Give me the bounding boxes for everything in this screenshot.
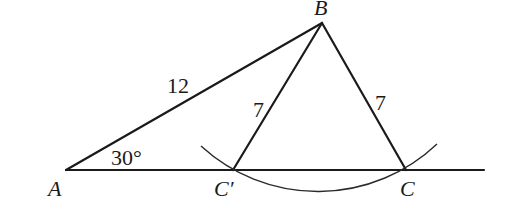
label-angle-a: 30°	[111, 145, 142, 170]
segment-bc-prime	[233, 23, 322, 170]
label-point-c-prime: C′	[214, 176, 235, 201]
label-point-a: A	[46, 176, 62, 201]
label-point-c: C	[400, 176, 415, 201]
label-length-ab: 12	[167, 73, 189, 98]
segment-ab	[66, 23, 322, 170]
label-length-bc: 7	[375, 90, 386, 115]
label-point-b: B	[314, 0, 327, 20]
segment-bc	[322, 23, 406, 170]
geometry-diagram: A B C′ C 12 7 7 30°	[0, 0, 511, 219]
label-length-bc-prime: 7	[253, 97, 264, 122]
